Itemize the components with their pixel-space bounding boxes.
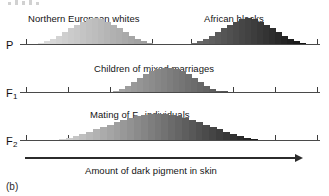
- panel-label-b: (b): [6, 182, 18, 192]
- plot-area-f2: [20, 112, 320, 150]
- plot-area-p: [20, 16, 320, 54]
- generation-row-f1: F1 Children of mixed marriages: [0, 66, 329, 102]
- histogram-f1-0: [20, 68, 320, 92]
- pigment-axis-arrow-line: [25, 157, 297, 159]
- row-label-f1-text: F: [6, 87, 13, 99]
- clipped-bar: [15, 0, 18, 5]
- clipped-bar: [8, 2, 11, 5]
- figure-panel-b: P Northern European whites African black…: [0, 0, 329, 196]
- histogram-bar: [299, 43, 306, 44]
- axis-title-pigment: Amount of dark pigment in skin: [85, 166, 217, 176]
- clipped-bar: [22, 1, 25, 5]
- axis-baseline-f1: [20, 92, 320, 93]
- clipped-panel-a-remnant: [8, 0, 42, 5]
- row-label-p: P: [6, 40, 14, 51]
- row-label-f2-sub: 2: [13, 140, 18, 149]
- row-label-f2: F2: [6, 136, 18, 147]
- clipped-bar: [36, 2, 39, 5]
- pigment-axis-arrow-head: [295, 154, 303, 162]
- generation-row-f2: F2 Mating of F1 individuals: [0, 112, 329, 150]
- axis-baseline-f2: [20, 140, 320, 141]
- plot-area-f1: [20, 66, 320, 102]
- histogram-p-1: [20, 18, 320, 44]
- row-label-f1: F1: [6, 88, 18, 99]
- clipped-bar: [29, 0, 32, 5]
- histogram-bar: [250, 139, 257, 140]
- row-label-p-text: P: [6, 39, 14, 51]
- row-label-f2-text: F: [6, 135, 13, 147]
- axis-baseline-p: [20, 44, 320, 45]
- generation-row-p: P Northern European whites African black…: [0, 16, 329, 54]
- row-label-f1-sub: 1: [13, 92, 18, 101]
- histogram-bar: [221, 91, 228, 92]
- histogram-f2-0: [20, 114, 320, 140]
